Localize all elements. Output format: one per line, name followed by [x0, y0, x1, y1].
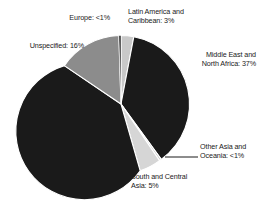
pie-label-unspecified: Unspecified: 16% [8, 42, 84, 51]
pie-label-latin-america-and-caribbean: Latin America and Caribbean: 3% [128, 8, 212, 25]
pie-label-europe: Europe: <1% [38, 14, 110, 23]
pie-label-other-asia-and-oceania: Other Asia and Oceania: <1% [200, 143, 258, 160]
pie-label-south-and-central-asia: South and Central Asia: 5% [131, 173, 203, 190]
pie-chart-figure: Europe: <1% Latin America and Caribbean:… [0, 0, 259, 203]
pie-chart-canvas [0, 0, 259, 203]
pie-label-sub-saharan-africa: Sub-Saharan Africa: 39% [8, 138, 80, 155]
pie-label-middle-east-and-north-africa: Middle East and North Africa: 37% [192, 51, 256, 68]
